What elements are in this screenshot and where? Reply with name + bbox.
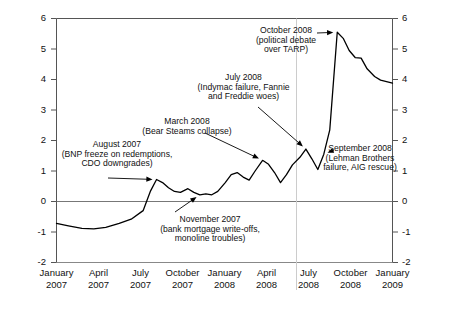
chart-figure: 6 5 4 3 2 1 0 -1 -2 6 5 4 3 2 1 0 -1 -2 … [0,0,449,309]
ytick-left-neg1: -1 [24,227,46,237]
annotation-line: (Bear Steams collapse) [122,127,252,137]
ytick-left-4: 4 [24,74,46,84]
ytick-right-5: 5 [402,44,424,54]
ytick-left-3: 3 [24,105,46,115]
annotation-line: CDO downgrades) [37,159,197,169]
xtick-jan-2009: January 2009 [365,267,421,290]
annotation-august-2007: August 2007 (BNP freeze on redemptions, … [37,140,197,169]
y-ticks-right [393,19,399,263]
xtick-year: 2009 [365,279,421,291]
annotation-line: and Freddie woes) [171,92,316,102]
annotation-leader-line [258,107,301,144]
annotation-september-2008: September 2008 (Lehman Brothers failure,… [305,144,415,173]
annotation-leader-line [108,178,150,179]
ytick-right-0: 0 [402,196,424,206]
ytick-left-5: 5 [24,44,46,54]
annotation-october-2008: October 2008 (political debate over TARP… [231,26,341,55]
annotation-line: monoline troubles) [130,234,290,244]
ytick-right-3: 3 [402,105,424,115]
ytick-left-0: 0 [24,196,46,206]
annotation-march-2008: March 2008 (Bear Steams collapse) [122,117,252,136]
xtick-month: January [365,267,421,279]
annotation-july-2008: July 2008 (Indymac failure, Fannie and F… [171,73,316,102]
ytick-right-4: 4 [402,74,424,84]
annotation-line: over TARP) [231,45,341,55]
ytick-right-neg2: -2 [402,257,424,267]
annotation-november-2007: November 2007 (bank mortgage write-offs,… [130,215,290,244]
ytick-right-6: 6 [402,13,424,23]
annotation-line: failure, AIG rescue) [305,163,415,173]
ytick-right-neg1: -1 [402,227,424,237]
ytick-left-neg2: -2 [24,257,46,267]
annotation-arrowhead [146,177,152,182]
annotation-leader-line [205,133,256,157]
annotation-leader-line [175,199,194,212]
ytick-left-6: 6 [24,13,46,23]
